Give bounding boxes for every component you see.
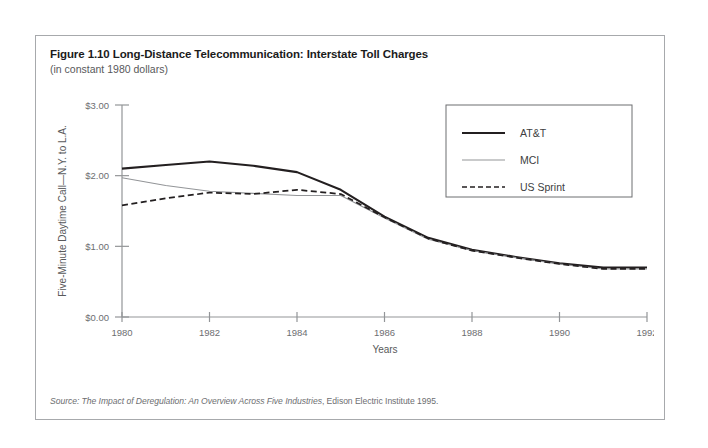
line-chart-svg: $0.00$1.00$2.00$3.00 1980198219841986198… [50, 91, 654, 391]
x-axis-ticks: 1980198219841986198819901992 [111, 312, 654, 338]
x-tick-label: 1990 [549, 327, 570, 338]
chart-legend: AT&TMCIUS Sprint [446, 105, 632, 197]
figure-frame: Figure 1.10 Long-Distance Telecommunicat… [35, 35, 665, 420]
figure-heading: Figure 1.10 Long-Distance Telecommunicat… [50, 47, 650, 76]
legend-label-at-t: AT&T [520, 127, 547, 139]
figure-subtitle: (in constant 1980 dollars) [50, 62, 650, 76]
series-line-us-sprint [122, 190, 647, 269]
x-tick-label: 1986 [374, 327, 395, 338]
y-tick-label: $1.00 [85, 241, 109, 252]
x-tick-label: 1992 [636, 327, 654, 338]
x-tick-label: 1984 [286, 327, 307, 338]
x-tick-label: 1982 [199, 327, 220, 338]
y-tick-label: $0.00 [85, 312, 109, 323]
source-note-rest: , Edison Electric Institute 1995. [322, 396, 438, 406]
x-axis-title: Years [372, 344, 397, 355]
figure-title: Figure 1.10 Long-Distance Telecommunicat… [50, 47, 650, 61]
legend-label-us-sprint: US Sprint [520, 181, 565, 193]
legend-label-mci: MCI [520, 154, 539, 166]
y-tick-label: $3.00 [85, 100, 109, 111]
x-tick-label: 1988 [461, 327, 482, 338]
source-note-italic: Source: The Impact of Deregulation: An O… [50, 396, 322, 406]
x-tick-label: 1980 [111, 327, 132, 338]
source-note: Source: The Impact of Deregulation: An O… [50, 396, 438, 406]
y-tick-label: $2.00 [85, 170, 109, 181]
y-axis-title: Five-Minute Daytime Call—N.Y. to L.A. [57, 125, 68, 297]
chart-plot-area: $0.00$1.00$2.00$3.00 1980198219841986198… [50, 91, 654, 391]
